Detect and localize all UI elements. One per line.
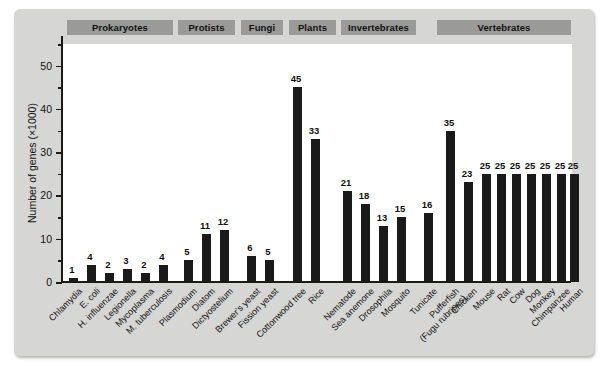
bar-value-label: 12: [218, 216, 229, 227]
bar-sea-anemone: [361, 204, 370, 282]
bar-nematode: [343, 191, 352, 282]
bar-value-label: 5: [184, 246, 189, 257]
y-tick-40: [56, 109, 62, 111]
bar-dictyostelium: [220, 230, 229, 282]
bar-value-label: 16: [422, 199, 433, 210]
bar-rice: [311, 139, 320, 282]
bar-plasmodium: [184, 260, 193, 282]
bar-cottonwood-tree: [293, 87, 302, 282]
bar-m-tuberculosis: [159, 265, 168, 282]
y-tick-label-0: 0: [18, 276, 52, 288]
y-tick-45: [58, 87, 62, 89]
x-axis-line: [62, 281, 571, 283]
bar-value-label: 23: [462, 168, 473, 179]
figure-root: ProkaryotesProtistsFungiPlantsInvertebra…: [0, 0, 609, 370]
group-header-fungi: Fungi: [241, 20, 283, 35]
bar-value-label: 18: [359, 190, 370, 201]
y-tick-55: [58, 44, 62, 46]
bar-monkey: [542, 174, 551, 282]
bar-value-label: 6: [247, 242, 252, 253]
bar-value-label: 13: [377, 212, 388, 223]
bar-human: [570, 174, 579, 282]
y-tick-label-10: 10: [18, 233, 52, 245]
bar-value-label: 2: [141, 259, 146, 270]
bar-value-label: 33: [309, 125, 320, 136]
y-tick-5: [58, 260, 62, 262]
bar-value-label: 5: [265, 246, 270, 257]
bar-value-label: 25: [495, 160, 506, 171]
group-header-prokaryotes: Prokaryotes: [67, 20, 173, 35]
bar-value-label: 11: [200, 220, 210, 231]
bar-mosquito: [397, 217, 406, 282]
bar-value-label: 4: [159, 251, 164, 262]
group-header-plants: Plants: [289, 20, 336, 35]
bar-mouse: [482, 174, 491, 282]
bar-value-label: 25: [525, 160, 536, 171]
y-tick-10: [56, 239, 62, 241]
y-tick-30: [56, 152, 62, 154]
bar-value-label: 15: [395, 203, 406, 214]
y-tick-15: [58, 217, 62, 219]
bar-value-label: 45: [291, 73, 302, 84]
y-tick-25: [58, 174, 62, 176]
bar-value-label: 25: [568, 160, 579, 171]
bar-value-label: 4: [87, 251, 92, 262]
bar-value-label: 35: [444, 117, 455, 128]
y-tick-35: [58, 131, 62, 133]
bar-value-label: 1: [69, 264, 74, 275]
bar-rat: [497, 174, 506, 282]
bar-fission-yeast: [265, 260, 274, 282]
y-tick-label-50: 50: [18, 60, 52, 72]
bar-cow: [512, 174, 521, 282]
bar-brewer-s-yeast: [247, 256, 256, 282]
bar-drosophila: [379, 226, 388, 282]
bar-value-label: 3: [123, 255, 128, 266]
y-tick-50: [56, 66, 62, 68]
bar-chicken: [464, 182, 473, 282]
group-header-vertebrates: Vertebrates: [437, 20, 571, 35]
y-tick-0: [56, 282, 62, 284]
bar-diatom: [202, 234, 211, 282]
group-header-protists: Protists: [178, 20, 235, 35]
bar-dog: [527, 174, 536, 282]
y-tick-20: [56, 195, 62, 197]
y-axis-line: [61, 36, 63, 282]
bar-e-coli: [87, 265, 96, 282]
group-header-invertebrates: Invertebrates: [341, 20, 416, 35]
bar-chimpanzee: [557, 174, 566, 282]
bar-value-label: 2: [105, 259, 110, 270]
bar-value-label: 25: [555, 160, 566, 171]
bar-value-label: 25: [480, 160, 491, 171]
bar-value-label: 25: [540, 160, 551, 171]
bar-pufferfish-fugu-rubripes: [446, 131, 455, 282]
y-axis-title-text: Number of genes (×1000): [26, 103, 38, 223]
bar-tunicate: [424, 213, 433, 282]
bar-value-label: 21: [341, 177, 352, 188]
bar-value-label: 25: [510, 160, 521, 171]
